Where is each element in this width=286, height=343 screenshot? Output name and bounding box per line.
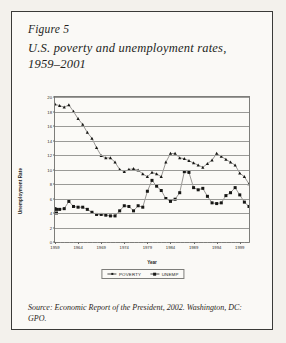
gridline [55,199,249,200]
data-point-unemp [192,186,195,189]
data-point-unemp [132,209,135,212]
data-point-unemp [160,189,163,192]
data-point-unemp [81,206,84,209]
data-point-unemp [104,214,107,217]
data-point-unemp [224,194,227,197]
y-tick-label: 4 [50,211,52,216]
x-tick-minor [166,242,167,243]
data-point-unemp [220,201,223,204]
data-point-poverty [55,103,57,106]
data-point-unemp [215,202,218,205]
data-point-unemp [151,179,154,182]
x-tick-label: 1964 [73,245,82,250]
x-tick-mark [78,242,79,244]
x-tick-minor [92,242,93,243]
data-point-unemp [72,205,75,208]
source-note: Source: Economic Report of the President… [28,302,258,324]
data-point-unemp [118,209,121,212]
y-tick-label: 12 [47,153,52,158]
data-point-poverty [150,171,153,174]
x-tick-minor [64,242,65,243]
x-tick-minor [120,242,121,243]
x-tick-minor [69,242,70,243]
gridline [55,126,249,127]
y-tick-mark [53,198,55,199]
y-tick-label: 0 [50,240,52,245]
x-tick-mark [55,242,56,244]
x-tick-minor [134,242,135,243]
gridline [55,155,249,156]
x-tick-minor [221,242,222,243]
data-point-poverty [238,171,241,174]
legend-label-poverty: POVERTY [119,272,141,277]
y-tick-label: 6 [50,196,52,201]
data-point-unemp [243,201,246,204]
data-point-unemp [137,204,140,207]
x-tick-minor [235,242,236,243]
x-tick-minor [143,242,144,243]
x-tick-minor [157,242,158,243]
legend-label-unemp: UNEMP [162,272,179,277]
x-tick-label: 1989 [189,245,198,250]
x-tick-mark [170,242,171,244]
y-tick-label: 20 [47,95,52,100]
y-tick-label: 16 [47,124,52,129]
y-tick-mark [53,213,55,214]
y-tick-label: 14 [47,138,52,143]
gridline [55,97,249,98]
y-tick-label: 10 [47,167,52,172]
x-tick-minor [244,242,245,243]
x-tick-minor [203,242,204,243]
x-tick-mark [101,242,102,244]
data-point-unemp [58,208,61,211]
y-tick-label: 8 [50,182,52,187]
legend-item-unemp: UNEMP [150,272,178,277]
gridline [55,141,249,142]
x-tick-mark [194,242,195,244]
x-tick-minor [73,242,74,243]
data-point-poverty [86,131,89,134]
y-tick-mark [53,155,55,156]
y-axis-title: Unemployment Rate [18,168,23,214]
x-tick-minor [175,242,176,243]
y-tick-label: 18 [47,109,52,114]
data-point-unemp [141,206,144,209]
data-point-unemp [169,200,172,203]
data-point-unemp [77,206,80,209]
x-tick-minor [189,242,190,243]
x-tick-label: 1979 [143,245,152,250]
data-point-poverty [229,161,232,164]
x-tick-minor [129,242,130,243]
data-point-poverty [67,103,70,106]
data-point-unemp [229,191,232,194]
y-tick-mark [53,97,55,98]
data-point-unemp [206,195,209,198]
y-tick-label: 2 [50,225,52,230]
series-line-unemp [55,172,249,216]
x-tick-label: 1999 [235,245,244,250]
x-tick-minor [198,242,199,243]
x-tick-label: 1994 [212,245,221,250]
data-point-unemp [114,214,117,217]
x-tick-minor [180,242,181,243]
unemp-marker-icon [150,273,159,276]
x-tick-minor [110,242,111,243]
gridline [55,184,249,185]
data-point-unemp [127,205,130,208]
x-tick-minor [231,242,232,243]
x-tick-minor [207,242,208,243]
x-tick-mark [240,242,241,244]
data-point-poverty [234,163,237,166]
x-tick-mark [147,242,148,244]
y-tick-mark [53,111,55,112]
x-tick-minor [226,242,227,243]
chart: Unemployment Rate 02468101214161820 1959… [26,88,260,294]
data-point-unemp [109,214,112,217]
data-point-unemp [178,191,181,194]
data-point-unemp [238,193,241,196]
data-point-unemp [86,208,89,211]
x-tick-minor [83,242,84,243]
figure-box: Figure 5 U.S. poverty and unemployment r… [11,11,273,330]
y-tick-mark [53,169,55,170]
x-tick-minor [138,242,139,243]
